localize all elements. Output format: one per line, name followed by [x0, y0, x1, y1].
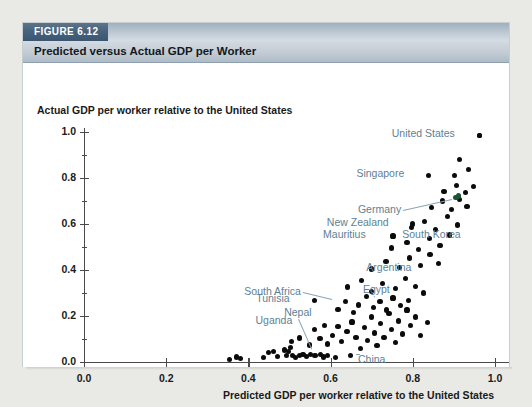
- y-tick: [80, 316, 89, 317]
- data-point: [404, 307, 409, 312]
- data-point: [358, 346, 363, 351]
- x-axis-line: [84, 362, 509, 363]
- data-point: [441, 189, 446, 194]
- point-label-argentina: Argentina: [366, 261, 411, 273]
- point-label-egypt: Egypt: [363, 283, 390, 295]
- data-point: [330, 333, 335, 338]
- x-tick-label: 0.0: [64, 372, 104, 384]
- y-tick-label: 0.4: [34, 263, 76, 275]
- x-tick: [495, 358, 496, 367]
- data-point: [317, 336, 322, 341]
- data-point: [445, 214, 450, 219]
- data-point: [404, 240, 409, 245]
- x-tick: [331, 358, 332, 367]
- x-tick: [248, 358, 249, 367]
- y-axis-title: Actual GDP per worker relative to the Un…: [37, 104, 292, 116]
- x-tick-label: 0.2: [146, 372, 186, 384]
- label-leader-line: [298, 319, 312, 350]
- data-point: [418, 333, 423, 338]
- data-point: [312, 327, 317, 332]
- x-tick-label: 0.6: [311, 372, 351, 384]
- data-point: [289, 339, 294, 344]
- point-label-south-korea: South Korea: [402, 228, 460, 240]
- data-point: [408, 323, 413, 328]
- data-point: [353, 335, 358, 340]
- y-tick: [80, 178, 89, 179]
- data-point: [374, 343, 379, 348]
- point-label-mauritius: Mauritius: [323, 228, 366, 240]
- data-point: [457, 157, 462, 162]
- data-point: [466, 167, 471, 172]
- data-point: [449, 207, 454, 212]
- data-point: [422, 219, 427, 224]
- point-label-united-states: United States: [392, 127, 455, 139]
- y-tick-label: 0.8: [34, 171, 76, 183]
- figure-container: FIGURE 6.12 Predicted versus Actual GDP …: [22, 22, 510, 367]
- data-point: [372, 330, 377, 335]
- data-point: [322, 323, 327, 328]
- point-label-china: China: [358, 353, 385, 365]
- figure-title-bar: Predicted versus Actual GDP per Worker: [23, 41, 509, 63]
- data-point: [436, 261, 441, 266]
- y-tick-label: 0.6: [34, 217, 76, 229]
- data-point: [389, 245, 394, 250]
- data-point: [351, 310, 356, 315]
- figure-number-label: FIGURE 6.12: [23, 23, 108, 41]
- data-point: [454, 183, 459, 188]
- point-label-new-zealand: New Zealand: [327, 216, 389, 228]
- y-minor-tick: [82, 155, 87, 156]
- data-point: [456, 193, 461, 198]
- data-point: [400, 331, 405, 336]
- figure-title: Predicted versus Actual GDP per Worker: [34, 41, 256, 62]
- data-point: [389, 327, 394, 332]
- data-point: [345, 284, 350, 289]
- data-point: [369, 314, 374, 319]
- data-point: [333, 355, 338, 360]
- data-point: [371, 305, 376, 310]
- data-point: [335, 324, 340, 329]
- data-point: [297, 335, 302, 340]
- y-minor-tick: [82, 293, 87, 294]
- y-minor-tick: [82, 201, 87, 202]
- data-point: [339, 339, 344, 344]
- data-point: [396, 318, 401, 323]
- data-point: [390, 295, 395, 300]
- data-point: [425, 320, 430, 325]
- x-tick-label: 1.0: [475, 372, 515, 384]
- data-point: [312, 353, 317, 358]
- data-point: [325, 341, 330, 346]
- data-point: [312, 298, 317, 303]
- y-tick-label: 0.2: [34, 309, 76, 321]
- x-tick-label: 0.8: [393, 372, 433, 384]
- y-tick: [80, 270, 89, 271]
- scatter-plot: Actual GDP per worker relative to the Un…: [23, 64, 509, 367]
- data-point: [335, 307, 340, 312]
- data-point: [378, 321, 383, 326]
- y-minor-tick: [82, 247, 87, 248]
- data-point: [427, 252, 432, 257]
- y-tick: [80, 224, 89, 225]
- figure-shadow: [26, 367, 512, 370]
- data-point: [288, 345, 293, 350]
- data-point: [452, 173, 457, 178]
- point-label-uganda: Uganda: [256, 314, 293, 326]
- x-tick-label: 0.4: [228, 372, 268, 384]
- data-point: [421, 290, 426, 295]
- data-point: [365, 338, 370, 343]
- data-point: [275, 354, 280, 359]
- data-point: [261, 355, 266, 360]
- point-label-germany: Germany: [358, 203, 401, 215]
- x-tick: [413, 358, 414, 367]
- data-point: [407, 255, 412, 260]
- x-tick: [166, 358, 167, 367]
- data-point: [349, 319, 354, 324]
- data-point: [398, 303, 403, 308]
- data-point: [344, 329, 349, 334]
- data-point: [418, 263, 423, 268]
- label-leader-line: [303, 292, 333, 300]
- data-point: [471, 184, 476, 189]
- x-tick: [84, 358, 85, 367]
- label-leader-line: [356, 354, 360, 355]
- data-point: [393, 286, 398, 291]
- data-point: [343, 299, 348, 304]
